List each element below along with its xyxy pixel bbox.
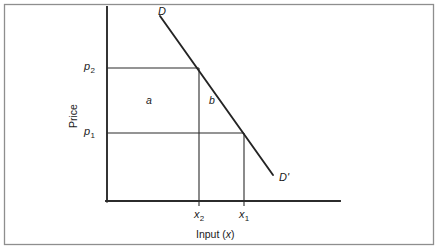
input-tick-x1-base: x	[239, 208, 245, 220]
price-tick-p1: p1	[84, 126, 95, 137]
x-axis-title: Input (x)	[196, 229, 235, 240]
price-tick-p2-sub: 2	[90, 66, 94, 75]
region-label-b: b	[209, 95, 215, 106]
x-axis-title-suffix: )	[231, 228, 235, 240]
price-tick-p1-sub: 1	[90, 131, 94, 140]
input-tick-x1: x1	[239, 209, 249, 220]
figure-container: p2 p1 x2 x1 Price Input (x) D D' a b	[0, 0, 438, 249]
y-axis-title: Price	[68, 104, 79, 128]
demand-curve-end-label: D'	[279, 172, 289, 183]
input-tick-x1-sub: 1	[245, 214, 249, 223]
input-tick-x2-sub: 2	[200, 214, 204, 223]
price-tick-p2: p2	[84, 61, 95, 72]
region-label-a: a	[146, 95, 152, 106]
input-tick-x2-base: x	[194, 208, 200, 220]
demand-curve	[160, 16, 273, 175]
x-axis-title-prefix: Input (	[196, 228, 226, 240]
input-tick-x2: x2	[194, 209, 204, 220]
demand-curve-start-label: D	[158, 6, 166, 17]
demand-diagram-svg	[0, 0, 438, 249]
